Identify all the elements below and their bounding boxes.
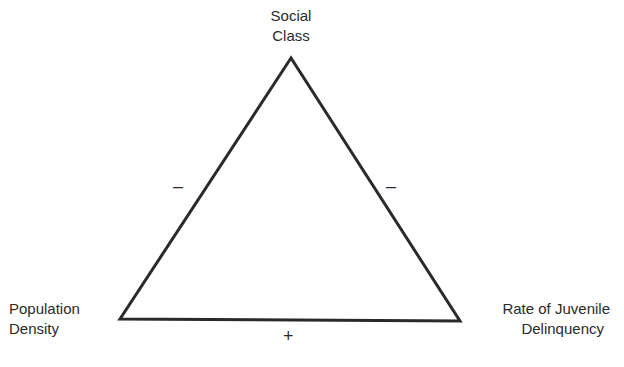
node-juvenile-delinquency: Rate of Juvenile Delinquency: [470, 299, 610, 339]
node-label-line2: Delinquency: [470, 319, 610, 339]
node-label-line2: Class: [262, 26, 320, 46]
node-label-line1: Rate of Juvenile: [470, 299, 610, 319]
node-label-line1: Social: [262, 6, 320, 26]
node-label-line2: Density: [9, 319, 80, 339]
edge-sign-bottom: +: [283, 327, 294, 345]
node-population-density: Population Density: [9, 299, 80, 339]
edge-sign-top-left: –: [173, 177, 183, 195]
node-social-class: Social Class: [262, 6, 320, 46]
edge-sign-top-right: –: [386, 177, 396, 195]
node-label-line1: Population: [9, 299, 80, 319]
triangle-edges: [120, 58, 460, 321]
